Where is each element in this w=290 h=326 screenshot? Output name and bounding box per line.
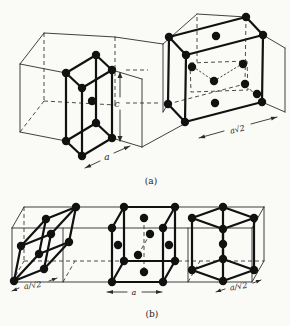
arrowhead-downleft-icon <box>12 288 17 291</box>
a-over-sqrt2-right-label: a/√2 <box>229 281 248 293</box>
arrowhead-downleft-icon <box>85 164 91 168</box>
crystal-structure-figure: c a a√2 (a) <box>0 0 290 326</box>
c-label: c <box>114 99 119 109</box>
hcp-unit-cell <box>66 55 112 156</box>
a-middle-label: a <box>132 288 137 297</box>
a-sqrt2-label: a√2 <box>229 123 246 135</box>
a-label: a <box>104 152 109 162</box>
arrowhead-left-icon <box>107 290 113 294</box>
middle-box-outline <box>142 44 186 147</box>
arrowhead-downleft-icon <box>199 135 205 139</box>
arrowhead-downleft-icon <box>216 289 221 292</box>
arrowhead-upright-icon <box>271 117 277 121</box>
panel-a-caption: (a) <box>145 176 157 186</box>
arrowhead-upright-icon <box>256 280 261 283</box>
arrowhead-right-icon <box>156 290 162 294</box>
a-over-sqrt2-left-label: a/√2 <box>23 280 42 291</box>
figure-canvas: c a a√2 (a) <box>0 0 290 326</box>
arrowhead-upright-icon <box>52 278 57 281</box>
dimension-a-sqrt2: a√2 <box>199 117 277 139</box>
dimension-a-middle: a <box>107 288 162 297</box>
arrowhead-upright-icon <box>124 146 130 150</box>
right-prism-outline <box>163 14 285 112</box>
panel-b-caption: (b) <box>146 309 159 319</box>
dimension-c: c <box>114 70 160 142</box>
